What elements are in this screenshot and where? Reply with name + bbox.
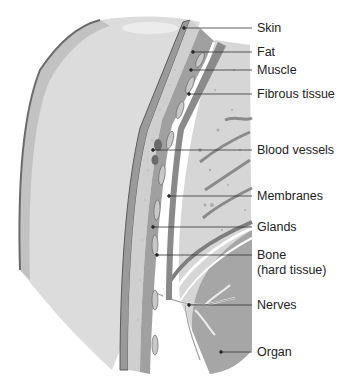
- label-glands: Glands: [257, 220, 297, 234]
- label-fat: Fat: [257, 45, 275, 59]
- label-skin: Skin: [257, 21, 281, 35]
- label-bone: Bone: [257, 248, 286, 262]
- label-fibrous-tissue: Fibrous tissue: [257, 87, 335, 101]
- label-organ: Organ: [257, 345, 292, 359]
- label-bone-hard-tissue: (hard tissue): [257, 263, 326, 277]
- label-muscle: Muscle: [257, 63, 297, 77]
- label-membranes: Membranes: [257, 189, 323, 203]
- label-nerves: Nerves: [257, 298, 297, 312]
- label-blood-vessels: Blood vessels: [257, 143, 334, 157]
